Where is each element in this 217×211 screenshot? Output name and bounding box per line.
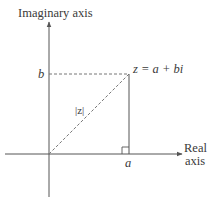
real-axis-label-line1: Real xyxy=(184,142,207,155)
complex-plane-diagram xyxy=(0,0,217,211)
real-axis-label-line2: axis xyxy=(185,155,205,168)
modulus-line xyxy=(49,74,129,154)
point-z-label: z = a + bi xyxy=(133,63,183,76)
a-component-label: a xyxy=(125,157,131,170)
imaginary-axis-label: Imaginary axis xyxy=(18,7,93,20)
b-component-label: b xyxy=(38,68,44,81)
right-angle-marker xyxy=(122,147,129,154)
modulus-label: |z| xyxy=(75,105,84,116)
